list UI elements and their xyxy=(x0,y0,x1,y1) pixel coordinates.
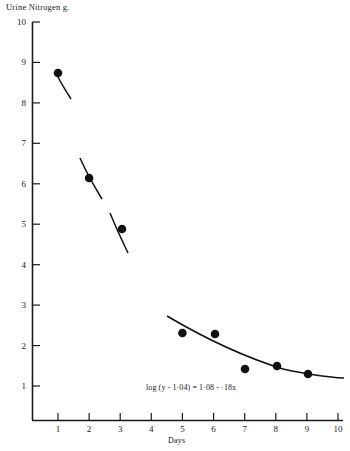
x-tick-label-3: 3 xyxy=(111,424,129,434)
x-tick-label-10: 10 xyxy=(329,424,347,434)
fit-curve-segment-1 xyxy=(57,75,71,99)
y-tick-label-3: 3 xyxy=(10,300,26,310)
data-point-day-2 xyxy=(85,174,94,183)
y-tick-marks xyxy=(33,22,41,386)
data-point-day-9 xyxy=(304,370,313,379)
axis-lines xyxy=(32,22,343,421)
y-tick-label-9: 9 xyxy=(10,57,26,67)
data-point-day-8 xyxy=(273,362,282,371)
y-tick-label-1: 1 xyxy=(10,381,26,391)
y-tick-label-10: 10 xyxy=(10,17,26,27)
x-tick-label-2: 2 xyxy=(80,424,98,434)
fit-equation-annotation: log (y - 1·04) = 1·08 - ·18x xyxy=(146,383,236,392)
x-tick-label-9: 9 xyxy=(298,424,316,434)
x-tick-label-4: 4 xyxy=(142,424,160,434)
x-tick-label-1: 1 xyxy=(49,424,67,434)
data-point-day-5 xyxy=(178,329,187,338)
urine-nitrogen-chart-figure: Urine Nitrogen g. xyxy=(0,0,350,451)
data-point-group xyxy=(54,69,313,379)
x-tick-label-7: 7 xyxy=(236,424,254,434)
x-tick-label-5: 5 xyxy=(173,424,191,434)
fit-curve-group xyxy=(57,75,344,378)
x-tick-label-6: 6 xyxy=(205,424,223,434)
fit-curve-segment-4 xyxy=(167,316,344,378)
y-tick-label-7: 7 xyxy=(10,138,26,148)
x-tick-label-8: 8 xyxy=(267,424,285,434)
y-tick-label-2: 2 xyxy=(10,341,26,351)
x-axis-title: Days xyxy=(168,436,185,445)
data-point-day-1 xyxy=(54,69,63,78)
y-tick-label-8: 8 xyxy=(10,98,26,108)
data-point-day-7 xyxy=(241,365,250,374)
data-point-day-6 xyxy=(211,330,220,339)
data-point-day-3 xyxy=(118,225,127,234)
y-tick-label-5: 5 xyxy=(10,219,26,229)
y-tick-label-4: 4 xyxy=(10,260,26,270)
x-tick-marks xyxy=(58,413,338,421)
y-tick-label-6: 6 xyxy=(10,179,26,189)
fit-curve-segment-3 xyxy=(110,213,128,253)
